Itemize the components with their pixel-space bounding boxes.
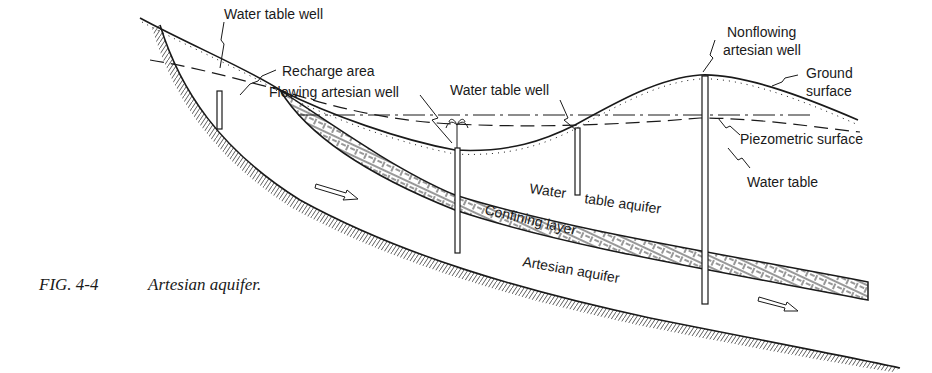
label-nonflowing-1: Nonflowing [727, 24, 796, 40]
label-recharge-area: Recharge area [282, 63, 375, 79]
label-nonflowing-2: artesian well [723, 42, 801, 58]
leader-nonflowing [703, 40, 715, 72]
label-piezometric-surface: Piezometric surface [740, 131, 863, 147]
nonflowing-artesian-well [702, 76, 708, 304]
label-water-table-well-left: Water table well [224, 6, 323, 22]
leader-flowing-well [420, 95, 452, 143]
flow-arrow-left [315, 184, 358, 200]
leader-water-table [728, 148, 750, 168]
label-flowing-artesian-well: Flowing artesian well [269, 84, 399, 100]
leader-piezometric [718, 118, 740, 135]
leader-water-table-well-left [220, 22, 224, 68]
flow-arrow-right [758, 297, 798, 311]
figure-number: FIG. 4-4 [38, 275, 99, 294]
figure-title: Artesian aquifer. [147, 275, 261, 294]
label-ground-2: surface [806, 83, 852, 99]
leader-ground-surface [772, 75, 798, 86]
label-water-table-aquifer-b: table aquifer [584, 190, 663, 217]
label-ground-1: Ground [806, 65, 853, 81]
water-table-well-center [575, 128, 580, 195]
label-artesian-aquifer: Artesian aquifer [521, 253, 621, 286]
artesian-aquifer-diagram: Water table well Recharge area Flowing a… [0, 0, 932, 373]
label-water-table: Water table [747, 174, 818, 190]
label-water-table-aquifer-a: Water [529, 180, 568, 201]
label-water-table-well-center: Water table well [450, 82, 549, 98]
water-table-well-left [217, 91, 222, 129]
